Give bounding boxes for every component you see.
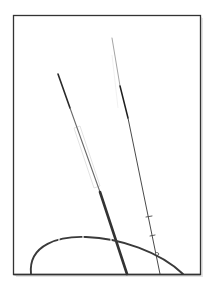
picture-frame [14,16,201,275]
line-drawing-canvas [0,0,217,291]
